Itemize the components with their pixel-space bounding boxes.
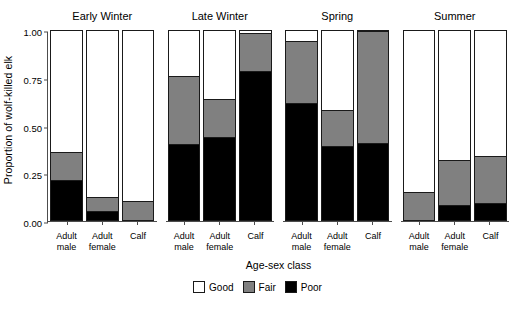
bar-segment-poor (51, 180, 82, 220)
stacked-bar[interactable] (239, 30, 272, 221)
stacked-bar[interactable] (438, 30, 471, 221)
x-axis-tick-mark (184, 221, 185, 225)
x-axis-label-word: Adult (56, 231, 77, 241)
legend-label: Fair (259, 282, 276, 293)
y-axis-tick-label: 0.75 (24, 74, 43, 85)
stacked-bar[interactable] (86, 30, 119, 221)
stacked-bar[interactable] (122, 30, 155, 221)
bar-segment-fair (87, 197, 118, 210)
bar-segment-fair (240, 33, 271, 71)
x-axis-tick-label: Adultfemale (203, 231, 236, 252)
stacked-bar[interactable] (403, 30, 436, 221)
legend-label: Poor (301, 282, 322, 293)
x-axis-label-word: male (174, 242, 194, 252)
x-axis-tick-label: Adultfemale (86, 231, 119, 252)
x-axis-tick-cell (285, 221, 320, 225)
bar-segment-good (475, 31, 506, 156)
x-axis-tick-mark (219, 221, 220, 225)
x-axis-label-word: Adult (92, 231, 113, 241)
stacked-bar[interactable] (168, 30, 201, 221)
legend-swatch-icon (193, 281, 205, 293)
x-axis-tick-label: Adultfemale (321, 231, 354, 252)
bar-segment-poor (87, 211, 118, 220)
x-axis-labels: AdultmaleAdultfemaleCalf (401, 229, 510, 252)
stacked-bar[interactable] (203, 30, 236, 221)
x-axis-tick-cell (85, 221, 120, 225)
x-axis-label-word: female (441, 242, 468, 252)
x-axis-label-word: female (324, 242, 351, 252)
bar-segment-good (169, 31, 200, 76)
bar-segment-good (204, 31, 235, 99)
x-axis-ticks (401, 221, 510, 225)
facet-plot-area (48, 26, 157, 221)
bar-segment-good (286, 31, 317, 40)
x-axis-tick-label: Calf (357, 231, 390, 252)
x-axis-label-word: male (409, 242, 429, 252)
x-axis-tick-mark (454, 221, 455, 225)
bar-segment-poor (286, 103, 317, 220)
facet-title: Early Winter (48, 6, 157, 26)
facet-title: Spring (283, 6, 392, 26)
x-axis-tick-label: Calf (239, 231, 272, 252)
y-axis-tick-label: 0.25 (24, 170, 43, 181)
x-axis-ticks (166, 221, 275, 225)
bar-segment-poor (358, 143, 389, 220)
x-axis-tick-cell (437, 221, 472, 225)
x-axis-label-word: Calf (483, 231, 499, 241)
x-axis (401, 221, 510, 229)
x-axis-label-word: Adult (327, 231, 348, 241)
x-axis-label-word: Adult (174, 231, 195, 241)
stacked-bar[interactable] (285, 30, 318, 221)
x-axis-tick-mark (489, 221, 490, 225)
x-axis-label-word: Calf (248, 231, 264, 241)
bar-segment-good (51, 31, 82, 152)
x-axis-label-word: Adult (209, 231, 230, 241)
bar-segment-fair (404, 192, 435, 220)
x-axis-labels: AdultmaleAdultfemaleCalf (166, 229, 275, 252)
legend-item[interactable]: Fair (243, 281, 276, 293)
stacked-bar[interactable] (321, 30, 354, 221)
facet-title: Late Winter (166, 6, 275, 26)
facet-panel: SummerAdultmaleAdultfemaleCalf (401, 6, 510, 252)
x-axis-labels: AdultmaleAdultfemaleCalf (283, 229, 392, 252)
bar-segment-fair (322, 110, 353, 146)
x-axis-tick-label: Adultmale (403, 231, 436, 252)
x-axis-tick-cell (50, 221, 85, 225)
x-axis-tick-mark (337, 221, 338, 225)
x-axis-label-word: female (89, 242, 116, 252)
bar-segment-fair (286, 41, 317, 103)
x-axis-tick-cell (120, 221, 155, 225)
bar-segment-fair (475, 156, 506, 203)
facet-panel: SpringAdultmaleAdultfemaleCalf (283, 6, 392, 252)
x-axis-tick-label: Adultmale (50, 231, 83, 252)
chart-legend: GoodFairPoor (0, 281, 515, 293)
x-axis-labels: AdultmaleAdultfemaleCalf (48, 229, 157, 252)
facet-plot-area (401, 26, 510, 221)
facet-panel: Early WinterAdultmaleAdultfemaleCalf (48, 6, 157, 252)
bar-segment-fair (358, 31, 389, 143)
facet-panel: Late WinterAdultmaleAdultfemaleCalf (166, 6, 275, 252)
bar-segment-fair (51, 152, 82, 180)
legend-item[interactable]: Good (193, 281, 233, 293)
facet-plot-area (166, 26, 275, 221)
stacked-bar[interactable] (50, 30, 83, 221)
y-axis-tick-label: 0.00 (24, 218, 43, 229)
x-axis-tick-mark (67, 221, 68, 225)
x-axis-tick-mark (302, 221, 303, 225)
bar-segment-good (322, 31, 353, 110)
x-axis-tick-mark (419, 221, 420, 225)
stacked-bar[interactable] (474, 30, 507, 221)
legend-item[interactable]: Poor (285, 281, 322, 293)
x-axis-tick-mark (254, 221, 255, 225)
bar-segment-poor (204, 137, 235, 220)
bar-segment-fair (439, 160, 470, 205)
x-axis-title: Age-sex class (48, 259, 509, 271)
x-axis-ticks (48, 221, 157, 225)
bar-segment-good (123, 31, 154, 201)
x-axis (283, 221, 392, 229)
stacked-bar[interactable] (357, 30, 390, 221)
bar-segment-poor (475, 203, 506, 220)
x-axis-tick-mark (102, 221, 103, 225)
x-axis-label-word: Calf (365, 231, 381, 241)
x-axis-ticks (283, 221, 392, 225)
